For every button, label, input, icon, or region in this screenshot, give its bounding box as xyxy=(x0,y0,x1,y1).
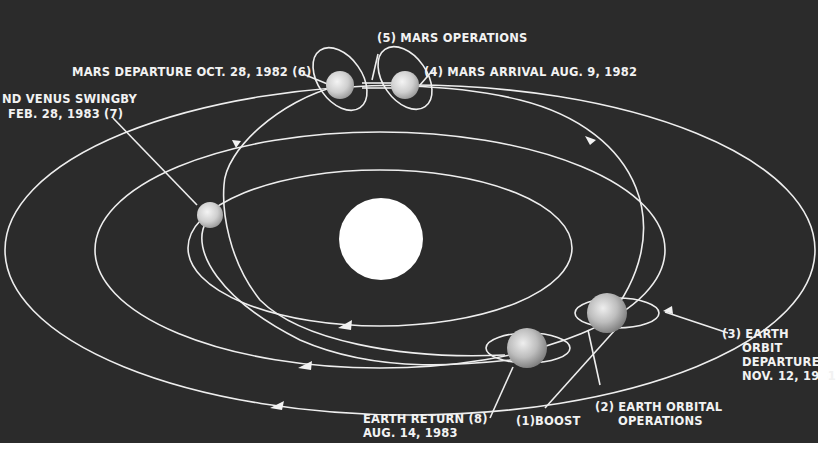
mars-arrival-planet xyxy=(391,71,419,99)
label-mars-operations: (5) MARS OPERATIONS xyxy=(377,32,528,45)
label-earth-return: EARTH RETURN (8) xyxy=(363,413,488,426)
sun xyxy=(339,198,423,280)
label-earth-orbit-departure-2: ORBIT xyxy=(742,342,783,355)
label-venus-swingby: ND VENUS SWINGBY xyxy=(2,93,137,106)
earth-return-planet xyxy=(507,328,547,368)
mars-departure-planet xyxy=(326,71,354,99)
label-boost: (1)BOOST xyxy=(516,415,581,428)
venus-planet xyxy=(197,202,223,228)
earth-departure-planet xyxy=(587,293,627,333)
label-earth-orbit-departure-3: DEPARTURE xyxy=(742,356,820,369)
label-venus-swingby-date: FEB. 28, 1983 (7) xyxy=(8,108,123,121)
label-earth-orbit-departure: (3) EARTH xyxy=(722,328,789,341)
label-earth-orbital-operations-2: OPERATIONS xyxy=(618,415,703,428)
label-mars-arrival: (4) MARS ARRIVAL AUG. 9, 1982 xyxy=(424,66,637,79)
label-earth-return-date: AUG. 14, 1983 xyxy=(363,427,458,440)
label-mars-departure: MARS DEPARTURE OCT. 28, 1982 (6) xyxy=(72,66,311,79)
label-earth-orbital-operations: (2) EARTH ORBITAL xyxy=(595,401,722,414)
page-edge-right xyxy=(818,0,827,450)
page-edge-bottom xyxy=(0,443,827,450)
